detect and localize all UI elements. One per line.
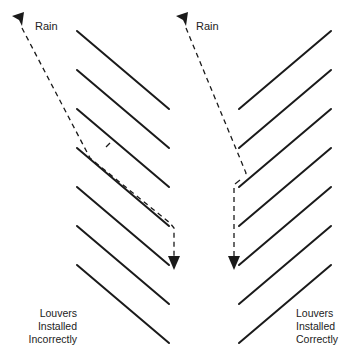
left-louver	[77, 31, 169, 109]
left-louver	[77, 70, 169, 148]
right-louver	[239, 109, 331, 187]
right-caption: Louvers Installed Correctly	[296, 307, 338, 346]
left-caption-line: Installed	[29, 320, 77, 333]
left-louver	[77, 148, 169, 226]
left-caption-line: Incorrectly	[29, 333, 77, 346]
right-louver	[239, 31, 331, 109]
left-rain-label: Rain	[35, 20, 58, 32]
left-louver	[77, 109, 169, 187]
right-louver	[239, 187, 331, 265]
right-louver	[239, 226, 331, 304]
left-caption-line: Louvers	[29, 307, 77, 320]
right-rain-path	[186, 28, 246, 262]
left-louvers	[77, 31, 169, 343]
right-caption-line: Louvers	[296, 307, 338, 320]
right-caption-line: Installed	[296, 320, 338, 333]
right-caption-line: Correctly	[296, 333, 338, 346]
left-drip-arrow-icon	[168, 256, 180, 270]
right-rain-arrowhead-icon	[176, 12, 188, 26]
right-louver	[239, 70, 331, 148]
left-rain-arrowhead-icon	[12, 12, 24, 26]
right-louvers	[239, 31, 331, 343]
left-louver	[77, 187, 169, 265]
right-rain-label: Rain	[196, 20, 219, 32]
cut-off-figure-caption	[0, 356, 351, 364]
left-louver	[77, 265, 169, 343]
left-caption: Louvers Installed Incorrectly	[29, 307, 77, 346]
right-louver	[239, 148, 331, 226]
left-louver	[77, 226, 169, 304]
left-rain-path	[22, 28, 174, 262]
right-drip-arrow-icon	[228, 256, 240, 270]
